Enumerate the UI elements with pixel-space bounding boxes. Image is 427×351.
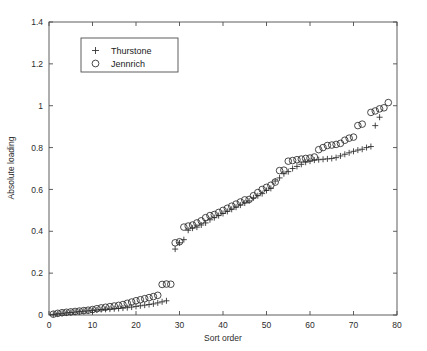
data-point-plus-marker — [372, 123, 378, 129]
scatter-plot: 01020304050607080 00.20.40.60.811.21.4 S… — [0, 0, 427, 351]
data-point-plus-marker — [364, 145, 370, 151]
data-point-circle-marker — [133, 297, 140, 304]
data-point-circle-marker — [385, 99, 392, 106]
data-point-plus-marker — [159, 299, 165, 305]
x-tick-label: 70 — [349, 320, 359, 330]
x-tick-label: 80 — [392, 320, 402, 330]
y-tick-label: 1 — [38, 101, 43, 111]
legend-label-jennrich: Jennrich — [111, 59, 145, 69]
data-point-plus-marker — [337, 153, 343, 159]
y-tick-label: 0 — [38, 310, 43, 320]
data-point-circle-marker — [350, 134, 357, 141]
legend-label-thurstone: Thurstone — [111, 46, 152, 56]
data-point-circle-marker — [146, 294, 153, 301]
data-point-plus-marker — [163, 298, 169, 304]
data-point-plus-marker — [368, 144, 374, 150]
data-point-plus-marker — [155, 300, 161, 306]
x-tick-label: 30 — [175, 320, 185, 330]
data-point-circle-marker — [333, 141, 340, 148]
data-point-plus-marker — [150, 301, 156, 307]
data-point-plus-marker — [351, 148, 357, 154]
data-point-plus-marker — [172, 246, 178, 252]
data-point-circle-marker — [150, 293, 157, 300]
x-tick-label: 60 — [305, 320, 315, 330]
y-axis-title: Absolute loading — [6, 136, 16, 199]
y-tick-label: 1.2 — [31, 59, 43, 69]
x-tick-label: 0 — [47, 320, 52, 330]
data-point-plus-marker — [342, 151, 348, 157]
data-point-circle-marker — [368, 109, 375, 116]
figure-container: 01020304050607080 00.20.40.60.811.21.4 S… — [0, 0, 427, 351]
data-point-circle-marker — [168, 281, 175, 288]
data-point-circle-marker — [137, 296, 144, 303]
y-tick-label: 1.4 — [31, 17, 43, 27]
x-tick-label: 50 — [262, 320, 272, 330]
data-point-plus-marker — [142, 302, 148, 308]
data-point-circle-marker — [141, 295, 148, 302]
data-point-plus-marker — [355, 147, 361, 153]
data-point-circle-marker — [289, 157, 296, 164]
y-tick-label: 0.6 — [31, 185, 43, 195]
data-point-circle-marker — [355, 122, 362, 129]
data-point-plus-marker — [377, 114, 383, 120]
data-point-plus-marker — [346, 150, 352, 156]
x-axis-title: Sort order — [204, 333, 242, 343]
y-tick-label: 0.4 — [31, 226, 43, 236]
data-point-plus-marker — [359, 146, 365, 152]
data-point-plus-marker — [329, 155, 335, 161]
data-point-plus-marker — [333, 155, 339, 161]
data-point-circle-marker — [154, 292, 161, 299]
data-point-circle-marker — [359, 121, 366, 128]
chart-legend: Thurstone Jennrich — [81, 38, 178, 72]
series-jennrich — [50, 99, 392, 317]
data-point-circle-marker — [181, 224, 188, 231]
data-point-circle-marker — [337, 140, 344, 147]
y-tick-label: 0.8 — [31, 143, 43, 153]
x-tick-label: 20 — [131, 320, 141, 330]
data-point-plus-marker — [146, 302, 152, 308]
y-tick-label: 0.2 — [31, 268, 43, 278]
x-tick-label: 40 — [218, 320, 228, 330]
x-tick-label: 10 — [88, 320, 98, 330]
